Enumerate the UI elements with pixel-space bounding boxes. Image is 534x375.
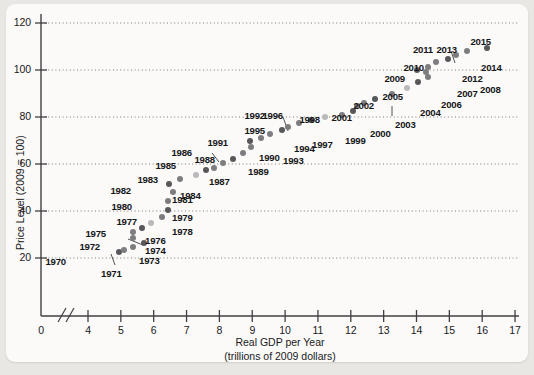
point-label-2012: 2012 <box>462 73 483 84</box>
data-point-1990 <box>248 144 254 150</box>
point-label-1988: 1988 <box>189 154 215 165</box>
point-label-1973: 1973 <box>139 255 160 266</box>
point-label-2014: 2014 <box>481 62 502 73</box>
y-tick-label-100: 100 <box>0 63 31 75</box>
point-label-1985: 1985 <box>150 160 176 171</box>
screenshot-root: Price Level (2009 = 100) Real GDP per Ye… <box>0 0 534 375</box>
point-label-1983: 1983 <box>132 174 158 185</box>
point-label-2008: 2008 <box>480 84 501 95</box>
point-label-1982: 1982 <box>105 185 131 196</box>
point-label-2004: 2004 <box>420 107 441 118</box>
point-label-2003: 2003 <box>395 119 416 130</box>
x-tick-label-17: 17 <box>495 324 534 336</box>
point-label-1989: 1989 <box>248 166 269 177</box>
data-point-1985 <box>203 167 209 173</box>
point-label-1975: 1975 <box>80 228 106 239</box>
point-label-2005: 2005 <box>377 91 403 102</box>
x-axis-title-line2: (trillions of 2009 dollars) <box>180 350 380 362</box>
data-point-1984 <box>193 172 199 178</box>
point-label-1980: 1980 <box>106 201 132 212</box>
point-label-1991: 1991 <box>202 137 228 148</box>
point-label-1993: 1993 <box>283 155 304 166</box>
point-label-1977: 1977 <box>111 216 137 227</box>
data-point-1987 <box>220 160 226 166</box>
point-label-2007: 2007 <box>457 88 478 99</box>
data-point-1976 <box>139 225 145 231</box>
point-label-1984: 1984 <box>180 190 201 201</box>
point-label-2013: 2013 <box>431 44 457 55</box>
point-label-2001: 2001 <box>326 112 352 123</box>
point-label-1971: 1971 <box>101 268 122 279</box>
data-point-1988 <box>230 156 236 162</box>
point-label-2002: 2002 <box>348 100 374 111</box>
point-label-1987: 1987 <box>209 176 230 187</box>
y-tick-label-60: 60 <box>0 157 31 169</box>
data-point-2006 <box>415 79 421 85</box>
point-label-1974: 1974 <box>145 245 166 256</box>
x-axis-title-line1: Real GDP per Year <box>180 336 380 348</box>
point-label-1990: 1990 <box>259 152 280 163</box>
point-label-2006: 2006 <box>441 99 462 110</box>
point-label-1970: 1970 <box>40 256 66 267</box>
data-point-1980 <box>165 198 171 204</box>
point-label-1998: 1998 <box>294 114 320 125</box>
data-point-1971 <box>121 247 127 253</box>
point-label-1995: 1995 <box>239 125 265 136</box>
y-tick-label-120: 120 <box>0 16 31 28</box>
point-label-1997: 1997 <box>312 139 333 150</box>
point-label-2009: 2009 <box>379 73 405 84</box>
point-label-2015: 2015 <box>465 36 491 47</box>
point-label-1978: 1978 <box>172 226 193 237</box>
data-point-2005 <box>404 85 410 91</box>
point-label-2011: 2011 <box>407 44 433 55</box>
point-label-1979: 1979 <box>172 212 193 223</box>
data-point-2012 <box>445 56 451 62</box>
leader-line-1971 <box>111 254 115 265</box>
y-tick-label-80: 80 <box>0 110 31 122</box>
point-label-1972: 1972 <box>74 241 100 252</box>
x-tick-label-0: 0 <box>21 324 61 336</box>
point-label-1976: 1976 <box>145 235 166 246</box>
y-axis-title: Price Level (2009 = 100) <box>14 135 26 250</box>
y-tick-label-40: 40 <box>0 204 31 216</box>
point-label-2010: 2010 <box>398 62 424 73</box>
y-tick-label-20: 20 <box>0 251 31 263</box>
point-label-1996: 1996 <box>257 110 283 121</box>
point-label-2000: 2000 <box>370 128 391 139</box>
point-label-1999: 1999 <box>345 135 366 146</box>
data-point-1977 <box>148 220 154 226</box>
